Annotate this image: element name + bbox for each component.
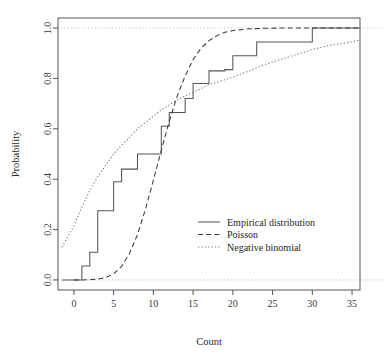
y-tick-label: 0.6	[43, 123, 54, 136]
x-tick-label: 15	[188, 298, 198, 309]
y-axis-title: Probability	[10, 130, 21, 177]
data-series	[62, 28, 360, 280]
plot-frame	[58, 18, 360, 290]
y-axis-tick-labels: 0.00.20.40.60.81.0	[43, 22, 54, 286]
x-tick-label: 35	[347, 298, 357, 309]
legend-label-poisson: Poisson	[227, 229, 258, 240]
x-tick-label: 0	[71, 298, 76, 309]
y-tick-label: 0.0	[43, 274, 54, 287]
ecdf-comparison-figure: 05101520253035 0.00.20.40.60.81.0 Count …	[0, 0, 387, 358]
series-line-empirical-distribution	[62, 28, 360, 280]
plot-border	[58, 18, 360, 290]
x-tick-label: 25	[268, 298, 278, 309]
plot-canvas: 05101520253035 0.00.20.40.60.81.0 Count …	[0, 0, 387, 358]
legend-label-empirical-distribution: Empirical distribution	[227, 217, 315, 228]
x-tick-label: 5	[111, 298, 116, 309]
legend: Empirical distributionPoissonNegative bi…	[198, 217, 315, 253]
reference-lines	[54, 28, 382, 280]
x-axis-title: Count	[196, 336, 222, 347]
x-tick-label: 10	[148, 298, 158, 309]
y-tick-label: 0.2	[43, 223, 54, 236]
legend-label-negative-binomial: Negative binomial	[227, 242, 301, 253]
y-tick-label: 1.0	[43, 22, 54, 35]
x-tick-label: 30	[307, 298, 317, 309]
x-tick-label: 20	[228, 298, 238, 309]
y-tick-label: 0.8	[43, 72, 54, 85]
x-axis-ticks	[74, 290, 352, 295]
y-axis-ticks	[53, 28, 58, 280]
x-axis-tick-labels: 05101520253035	[71, 298, 357, 309]
y-tick-label: 0.4	[43, 173, 54, 186]
series-line-poisson	[74, 28, 360, 280]
